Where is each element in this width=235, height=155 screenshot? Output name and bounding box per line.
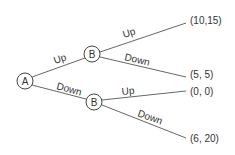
payoff-down-down: (6, 20) — [190, 133, 219, 144]
node-b-lower: B — [86, 94, 102, 110]
edge-label-a-up: Up — [52, 51, 68, 66]
game-tree-diagram: Up Down Up Down Up Down A B B (10,15) (5… — [0, 0, 235, 155]
edge-b1-up — [100, 23, 186, 52]
payoff-down-up: (0, 0) — [190, 86, 213, 97]
edge-b2-up — [102, 91, 186, 100]
payoff-up-up: (10,15) — [190, 15, 222, 26]
edge-label-b1-up: Up — [121, 25, 137, 40]
edge-label-b2-up: Up — [121, 85, 135, 97]
node-a-label: A — [22, 76, 29, 87]
payoff-up-down: (5, 5) — [190, 69, 213, 80]
node-b-upper-label: B — [89, 49, 96, 60]
node-a: A — [17, 73, 33, 89]
node-b-upper: B — [84, 46, 100, 62]
node-b-lower-label: B — [91, 97, 98, 108]
